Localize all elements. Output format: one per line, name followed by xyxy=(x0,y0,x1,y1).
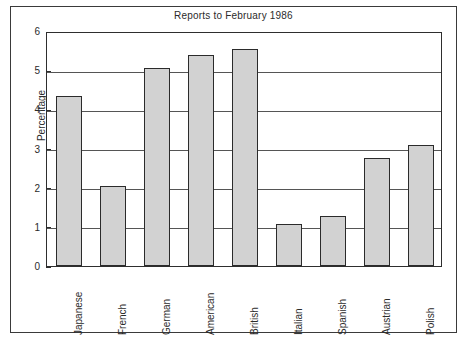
chart-title: Reports to February 1986 xyxy=(10,10,457,21)
y-tick-mark xyxy=(46,32,51,33)
x-tick-label: Spanish xyxy=(337,299,348,335)
y-tick-mark xyxy=(46,149,51,150)
bars-layer xyxy=(47,33,441,266)
y-tick-label: 5 xyxy=(14,66,40,76)
x-tick-labels: JapaneseFrenchGermanAmericanBritishItali… xyxy=(46,269,442,339)
y-tick-mark xyxy=(46,227,51,228)
bar xyxy=(232,49,258,266)
bar xyxy=(56,96,82,266)
x-tick-label: German xyxy=(161,299,172,335)
y-tick-label: 1 xyxy=(14,223,40,233)
x-tick-label: Austrian xyxy=(381,298,392,335)
bar xyxy=(276,224,302,266)
bar xyxy=(100,186,126,266)
bar xyxy=(188,55,214,267)
plot-area xyxy=(46,32,442,267)
y-tick-mark xyxy=(46,188,51,189)
bar xyxy=(144,68,170,266)
bar xyxy=(364,158,390,266)
y-tick-labels: 6543210 xyxy=(10,32,40,267)
y-tick-label: 3 xyxy=(14,145,40,155)
y-tick-mark xyxy=(46,110,51,111)
y-tick-label: 0 xyxy=(14,262,40,272)
y-tick-label: 4 xyxy=(14,105,40,115)
x-tick-label: Italian xyxy=(293,308,304,335)
y-tick-mark xyxy=(46,267,51,268)
bar xyxy=(408,145,434,266)
y-tick-label: 2 xyxy=(14,184,40,194)
y-tick-mark xyxy=(46,71,51,72)
x-tick-label: Japanese xyxy=(73,292,84,335)
x-tick-label: French xyxy=(117,304,128,335)
chart-figure: Reports to February 1986 Percentage 6543… xyxy=(0,0,468,347)
bar xyxy=(320,216,346,266)
x-tick-label: American xyxy=(205,293,216,335)
x-tick-label: British xyxy=(249,307,260,335)
x-tick-label: Polish xyxy=(425,308,436,335)
y-tick-label: 6 xyxy=(14,27,40,37)
